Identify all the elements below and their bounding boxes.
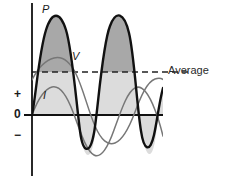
waveform-plot — [0, 0, 226, 183]
y-axis-zero-label: 0 — [14, 108, 21, 120]
y-axis-positive-label: + — [14, 88, 21, 100]
average-line-label: Average — [168, 65, 209, 76]
current-curve-label: I — [43, 90, 46, 101]
voltage-curve-label: V — [72, 51, 79, 62]
y-axis-negative-label: − — [14, 129, 21, 141]
power-curve-label: P — [42, 4, 49, 15]
ac-power-waveform-figure: P V I + 0 − Average — [0, 0, 226, 183]
